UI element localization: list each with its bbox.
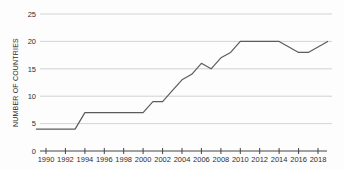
countries-line-chart: 0510152025199019921994199619982000200220… — [0, 0, 344, 170]
x-tick-label-1994: 1994 — [77, 155, 94, 164]
y-tick-label-15: 15 — [28, 65, 36, 74]
x-tick-label-2006: 2006 — [193, 155, 210, 164]
y-axis-title: NUMBER OF COUNTRIES — [12, 38, 19, 127]
y-tick-label-25: 25 — [28, 10, 36, 19]
x-tick-label-2018: 2018 — [310, 155, 327, 164]
chart-canvas: 0510152025199019921994199619982000200220… — [0, 0, 344, 170]
x-tick-label-2016: 2016 — [290, 155, 307, 164]
x-tick-label-2002: 2002 — [154, 155, 171, 164]
y-tick-label-5: 5 — [32, 119, 36, 128]
y-tick-label-20: 20 — [28, 37, 36, 46]
x-tick-label-2012: 2012 — [251, 155, 268, 164]
x-tick-label-1992: 1992 — [57, 155, 74, 164]
x-tick-label-2000: 2000 — [135, 155, 152, 164]
x-tick-label-1998: 1998 — [115, 155, 132, 164]
x-tick-label-2008: 2008 — [213, 155, 230, 164]
x-tick-label-1996: 1996 — [96, 155, 113, 164]
data-line — [36, 41, 327, 129]
x-tick-label-2010: 2010 — [232, 155, 249, 164]
chart-plot: 0510152025199019921994199619982000200220… — [0, 0, 344, 170]
y-tick-label-10: 10 — [28, 92, 36, 101]
x-tick-label-2004: 2004 — [174, 155, 191, 164]
y-tick-label-0: 0 — [32, 147, 36, 156]
x-tick-label-1990: 1990 — [38, 155, 55, 164]
x-tick-label-2014: 2014 — [271, 155, 288, 164]
